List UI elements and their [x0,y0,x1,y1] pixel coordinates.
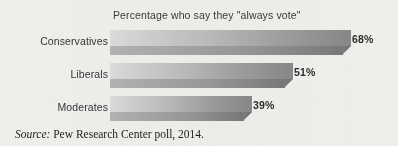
bar-value-label: 39% [253,99,274,111]
bar-face-cap [244,96,252,112]
bar-face-cap [343,30,351,46]
bar-row: Liberals 51% [0,61,398,91]
bar-shadow-cap [243,112,252,121]
bar-moderates [110,96,244,122]
bar-face [110,63,285,79]
bar-shadow-face [110,79,285,88]
source-text: Pew Research Center poll, 2014. [53,128,204,140]
bar-row: Moderates 39% [0,94,398,124]
bar-value-label: 68% [352,33,373,45]
bar-face [110,96,244,112]
bar-category-label: Liberals [0,68,108,80]
source-label: Source: [15,128,50,140]
chart-figure: Percentage who say they "always vote" Co… [0,0,398,146]
bar-shadow-cap [284,79,293,88]
bar-shadow-face [110,46,343,55]
bar-conservatives [110,30,343,56]
bar-category-label: Moderates [0,101,108,113]
source-caption: Source: Pew Research Center poll, 2014. [15,128,204,140]
bar-value-label: 51% [294,66,315,78]
bar-category-label: Conservatives [0,35,108,47]
chart-plot-area: Conservatives 68% Liberals 51% Moderates [0,28,398,120]
bar-shadow-cap [342,46,351,55]
bar-shadow-face [110,112,244,121]
chart-title: Percentage who say they "always vote" [113,9,301,21]
bar-liberals [110,63,285,89]
bar-row: Conservatives 68% [0,28,398,58]
bar-face-cap [285,63,293,79]
bar-face [110,30,343,46]
